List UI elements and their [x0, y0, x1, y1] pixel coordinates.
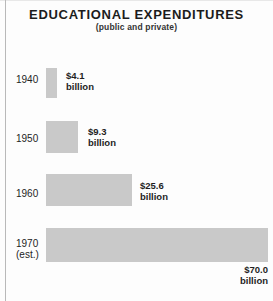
- year-value-1970: 1970: [16, 238, 38, 249]
- value-unit-1970: billion: [178, 275, 268, 286]
- year-label-1940: 1940: [16, 74, 38, 85]
- educational-expenditures-chart: EDUCATIONAL EXPENDITURES (public and pri…: [0, 0, 273, 301]
- year-label-1960: 1960: [16, 188, 38, 199]
- bar-1970: [46, 228, 268, 262]
- value-amount-1950: $9.3: [88, 126, 107, 137]
- chart-title: EDUCATIONAL EXPENDITURES: [0, 7, 273, 22]
- value-amount-1960: $25.6: [140, 180, 164, 191]
- year-label-1970: 1970 (est.): [16, 238, 39, 260]
- chart-subtitle: (public and private): [0, 22, 273, 32]
- value-unit-1960: billion: [140, 191, 168, 202]
- value-amount-1940: $4.1: [66, 70, 85, 81]
- value-amount-1970: $70.0: [244, 264, 268, 275]
- bar-1950: [46, 121, 78, 153]
- value-label-1940: $4.1 billion: [66, 70, 94, 92]
- value-label-1950: $9.3 billion: [88, 126, 116, 148]
- bar-1960: [46, 174, 132, 206]
- value-unit-1940: billion: [66, 81, 94, 92]
- value-label-1960: $25.6 billion: [140, 180, 168, 202]
- value-label-1970: $70.0 billion: [178, 264, 268, 286]
- value-unit-1950: billion: [88, 137, 116, 148]
- year-note-1970: (est.): [16, 249, 39, 260]
- top-edge-rule: [0, 0, 273, 1]
- left-margin-rule: [5, 0, 6, 301]
- year-label-1950: 1950: [16, 133, 38, 144]
- bar-1940: [46, 68, 57, 98]
